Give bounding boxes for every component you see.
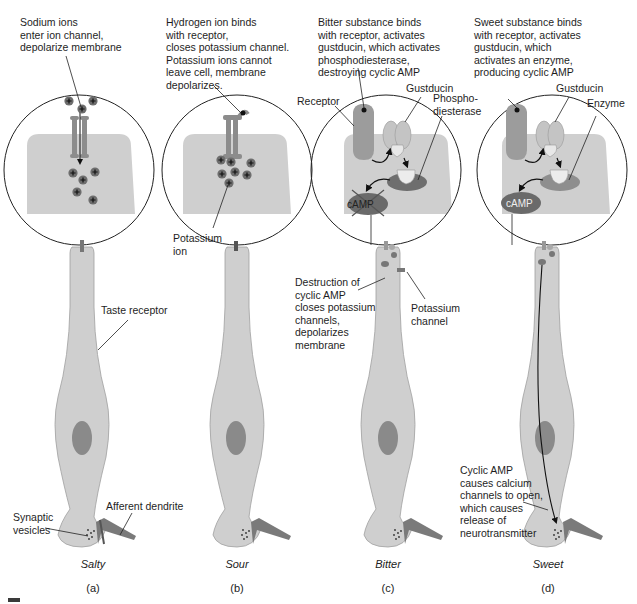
bitter-description: Bitter substance binds with receptor, ac… — [318, 16, 440, 79]
destruction-camp-label: Destruction of cyclic AMP closes potassi… — [295, 276, 376, 351]
hydrogen-ion-icon — [241, 111, 246, 116]
bitter-caption: Bitter — [348, 558, 428, 570]
panel-letter-b: (b) — [217, 582, 257, 595]
synaptic-vesicles-label: Synaptic vesicles — [13, 511, 53, 536]
sour-caption: Sour — [197, 558, 277, 570]
sweet-caption: Sweet — [508, 558, 588, 570]
zoom-circle-a — [4, 56, 154, 245]
taste-cell-b — [210, 241, 291, 547]
panel-letter-a: (a) — [73, 582, 113, 594]
enzyme-label: Enzyme — [587, 97, 625, 110]
potassium-channel-label: Potassium channel — [411, 302, 460, 327]
gustducin-label-d: Gustducin — [556, 82, 603, 95]
afferent-dendrite-label: Afferent dendrite — [106, 500, 183, 513]
taste-receptor-label: Taste receptor — [101, 304, 168, 317]
panel-a-salty — [4, 56, 154, 547]
phosphodiesterase-label: Phospho- diesterase — [433, 92, 481, 117]
camp-label-d: cAMP — [506, 198, 533, 211]
potassium-channel-icon-c — [397, 268, 405, 272]
receptor-label: Receptor — [297, 95, 340, 108]
taste-transduction-figure: Sodium ions enter ion channel, depolariz… — [0, 0, 637, 604]
panel-b-sour — [162, 86, 312, 547]
panel-letter-c: (c) — [368, 582, 408, 594]
nucleus-a — [72, 421, 92, 455]
cyclic-amp-effect-label: Cyclic AMP causes calcium channels to op… — [460, 464, 543, 539]
sodium-channel-icon — [70, 110, 89, 163]
camp-label-c: cAMP — [347, 199, 374, 212]
sour-description: Hydrogen ion binds with receptor, closes… — [166, 16, 289, 91]
panel-letter-d: (d) — [528, 582, 568, 594]
salty-caption: Salty — [53, 558, 133, 570]
sweet-description: Sweet substance binds with receptor, act… — [474, 16, 582, 79]
salty-description: Sodium ions enter ion channel, depolariz… — [20, 16, 122, 54]
figure-marker-bar — [8, 598, 20, 602]
potassium-ion-label: Potassium ion — [173, 232, 222, 257]
